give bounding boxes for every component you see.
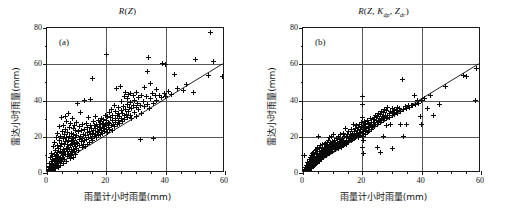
x-tick-minor (466, 171, 467, 174)
scatter-point (163, 94, 168, 99)
y-tick-label: 0 (38, 168, 42, 177)
scatter-point (169, 92, 174, 97)
scatter-point (147, 106, 152, 111)
scatter-point (404, 122, 409, 127)
scatter-point (88, 97, 93, 102)
figure-scatter-comparison: R(Z) (a) 020406080 0204060 雨量计小时雨量(mm) 雷… (0, 0, 511, 220)
x-tick-minor (210, 171, 211, 174)
x-tick-minor (437, 171, 438, 174)
y-tick-minor (301, 155, 304, 156)
y-tick-label: 80 (34, 23, 42, 32)
scatter-point (400, 77, 405, 82)
panel-b-ytick-labels: 020406080 (278, 0, 298, 220)
scatter-point (473, 98, 478, 103)
x-tick-minor (407, 171, 408, 174)
panel-a-plot-area: (a) (46, 27, 224, 172)
scatter-point (378, 150, 383, 155)
x-tick-minor (195, 171, 196, 174)
y-tick-minor (45, 46, 48, 47)
scatter-point (361, 151, 366, 156)
scatter-point (360, 145, 365, 150)
x-tick-minor (451, 171, 452, 174)
x-tick-label: 20 (101, 176, 109, 185)
scatter-point (175, 86, 180, 91)
x-tick-minor (121, 171, 122, 174)
scatter-point (422, 96, 427, 101)
panel-a-title-args: (Z) (125, 6, 137, 16)
y-tick-major (43, 137, 47, 138)
x-tick-major (47, 171, 48, 175)
scatter-point (172, 72, 177, 77)
scatter-point (151, 136, 156, 141)
scatter-point (163, 62, 168, 67)
x-tick-minor (181, 171, 182, 174)
y-tick-label: 60 (34, 59, 42, 68)
panel-b-tag: (b) (315, 37, 326, 47)
scatter-point (142, 85, 147, 90)
x-tick-minor (392, 171, 393, 174)
scatter-point (443, 84, 448, 89)
y-tick-minor (301, 46, 304, 47)
y-tick-major (43, 101, 47, 102)
panel-a-ytick-labels: 020406080 (22, 0, 42, 220)
scatter-point (401, 134, 406, 139)
scatter-point (360, 94, 365, 99)
y-tick-major (299, 101, 303, 102)
y-tick-minor (301, 119, 304, 120)
scatter-point (211, 59, 216, 64)
y-tick-major (43, 64, 47, 65)
scatter-point (78, 110, 83, 115)
panel-a-xlabel: 雨量计小时雨量(mm) (0, 190, 255, 203)
y-tick-label: 20 (34, 131, 42, 140)
y-tick-minor (301, 82, 304, 83)
scatter-point (119, 99, 124, 104)
x-tick-label: 60 (220, 176, 228, 185)
scatter-point (428, 93, 433, 98)
scatter-point (388, 122, 393, 127)
panel-b-ylabel: 雷达小时雨量(mm) (265, 52, 278, 162)
y-tick-label: 0 (294, 168, 298, 177)
scatter-point (138, 137, 143, 142)
x-tick-major (106, 171, 107, 175)
x-tick-minor (151, 171, 152, 174)
x-tick-minor (62, 171, 63, 174)
scatter-point (361, 138, 366, 143)
y-tick-label: 20 (290, 131, 298, 140)
scatter-point (118, 84, 123, 89)
x-tick-major (422, 171, 423, 175)
x-tick-minor (318, 171, 319, 174)
y-tick-major (299, 28, 303, 29)
panel-b-xlabel: 雨量计小时雨量(mm) (256, 190, 511, 203)
scatter-point (139, 111, 144, 116)
scatter-point (134, 114, 139, 119)
scatter-point (425, 106, 430, 111)
y-tick-label: 40 (34, 95, 42, 104)
scatter-point (390, 146, 395, 151)
x-tick-major (481, 171, 482, 175)
scatter-point (184, 82, 189, 87)
scatter-point (154, 87, 159, 92)
panel-a-ylabel: 雷达小时雨量(mm) (9, 52, 22, 162)
scatter-point (208, 30, 213, 35)
x-tick-major (166, 171, 167, 175)
x-tick-minor (92, 171, 93, 174)
y-tick-minor (45, 82, 48, 83)
x-tick-minor (333, 171, 334, 174)
scatter-point (418, 114, 423, 119)
y-tick-major (299, 137, 303, 138)
x-tick-label: 20 (357, 176, 365, 185)
panel-a-tag: (a) (59, 37, 69, 47)
x-tick-minor (377, 171, 378, 174)
x-tick-major (303, 171, 304, 175)
scatter-point (148, 81, 153, 86)
scatter-point (75, 101, 80, 106)
scatter-point (464, 74, 469, 79)
y-tick-label: 80 (290, 23, 298, 32)
y-tick-label: 60 (290, 59, 298, 68)
y-tick-major (43, 28, 47, 29)
y-tick-minor (45, 155, 48, 156)
scatter-point (104, 52, 109, 57)
scatter-point (193, 57, 198, 62)
y-tick-label: 40 (290, 95, 298, 104)
panel-b: R(Z, Kdp, Zdr) (b) 020406080 0204060 雨量计… (256, 0, 511, 220)
